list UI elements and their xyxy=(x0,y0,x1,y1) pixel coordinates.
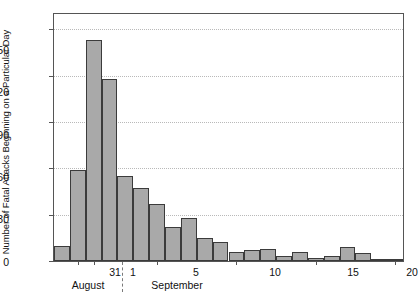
x-tick-mark-15 xyxy=(316,261,317,265)
y-tick-label-150: 150 xyxy=(0,44,9,56)
bar xyxy=(324,256,340,261)
plot-inner xyxy=(54,14,403,261)
bar xyxy=(54,246,70,261)
y-tick-label-90: 90 xyxy=(0,129,9,141)
month-label-august: August xyxy=(72,279,105,291)
x-tick-mark-20 xyxy=(395,261,396,265)
x-tick-label-15: 15 xyxy=(347,266,359,278)
x-tick-label-20: 20 xyxy=(406,266,418,278)
x-tick-mark-10 xyxy=(236,261,237,265)
bar xyxy=(292,252,308,261)
y-tick-label-30: 30 xyxy=(0,213,9,225)
month-label-september: September xyxy=(151,279,202,291)
y-tick-label-0: 0 xyxy=(0,256,9,268)
bar xyxy=(181,218,197,261)
chart-figure: Number of Fatal Attacks Beginning on a P… xyxy=(0,0,418,296)
bar xyxy=(260,249,276,261)
bar xyxy=(86,40,102,261)
bar xyxy=(340,247,356,261)
month-divider xyxy=(122,262,123,292)
bar xyxy=(149,204,165,261)
bar xyxy=(70,170,86,261)
bar xyxy=(102,79,118,261)
bar xyxy=(117,176,133,261)
bar xyxy=(244,250,260,261)
bar xyxy=(133,188,149,261)
y-tick-mark-60 xyxy=(49,168,54,169)
x-tick-mark-0 xyxy=(78,261,79,265)
x-tick-label-5: 5 xyxy=(193,266,199,278)
y-tick-label-120: 120 xyxy=(0,86,9,98)
y-tick-mark-150 xyxy=(49,29,54,30)
bar xyxy=(229,252,245,261)
bar xyxy=(371,259,387,261)
y-tick-mark-90 xyxy=(49,122,54,123)
y-tick-mark-30 xyxy=(49,215,54,216)
x-tick-label-31: 31 xyxy=(109,266,121,278)
bar xyxy=(197,238,213,261)
bar xyxy=(165,227,181,261)
bar xyxy=(355,253,371,261)
gridline-120 xyxy=(54,76,403,77)
x-tick-mark-5 xyxy=(157,261,158,265)
y-tick-label-60: 60 xyxy=(0,171,9,183)
y-tick-mark-0 xyxy=(49,261,54,262)
x-tick-label-10: 10 xyxy=(269,266,281,278)
bar xyxy=(276,256,292,261)
gridline-150 xyxy=(54,29,403,30)
x-tick-mark-1 xyxy=(94,261,95,265)
x-tick-label-1: 1 xyxy=(130,266,136,278)
plot-area xyxy=(53,13,404,262)
bar xyxy=(213,242,229,261)
y-tick-mark-120 xyxy=(49,76,54,77)
